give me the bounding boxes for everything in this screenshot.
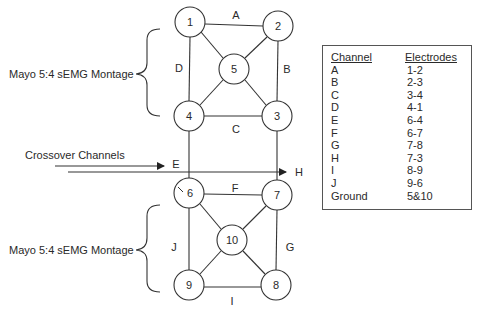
channel-cell: A (331, 64, 405, 77)
channel-label-j: J (171, 241, 177, 253)
node-label-2: 2 (275, 20, 281, 32)
channel-cell: I (331, 164, 405, 177)
table-row: B2-3 (331, 76, 457, 89)
channel-cell: G (331, 139, 405, 152)
electrodes-cell: 6-7 (405, 127, 423, 140)
table-row: G7-8 (331, 139, 457, 152)
ground-link-2-5 (245, 37, 267, 58)
channel-g-line (276, 210, 277, 270)
channel-label-c: C (232, 123, 240, 135)
electrodes-cell: 9-6 (405, 177, 423, 190)
table-row: E6-4 (331, 114, 457, 127)
electrodes-cell: 3-4 (405, 89, 423, 102)
bottom-brace-icon (136, 205, 160, 292)
channel-label-d: D (175, 62, 183, 74)
electrodes-cell: 2-3 (405, 76, 423, 89)
ground-link-4-5 (200, 80, 223, 105)
channel-label-e: E (172, 158, 179, 170)
ground-link-1-5 (201, 32, 223, 58)
table-row: D4-1 (331, 101, 457, 114)
header-channel: Channel (331, 51, 372, 63)
node-label-4: 4 (186, 110, 192, 122)
table-row: J9-6 (331, 177, 457, 190)
montage-label-top: Mayo 5:4 sEMG Montage (9, 68, 134, 80)
table-row: A1-2 (331, 64, 457, 77)
channel-cell: D (331, 101, 405, 114)
electrodes-cell: 7-3 (405, 152, 423, 165)
crossover-channels-label: Crossover Channels (25, 149, 125, 161)
channel-f-line (204, 194, 262, 195)
electrodes-cell: 7-8 (405, 139, 423, 152)
header-electrodes: Electrodes (405, 51, 457, 63)
channel-cell: B (331, 76, 405, 89)
table-row: I8-9 (331, 164, 457, 177)
node-label-8: 8 (273, 279, 279, 291)
channel-cell: H (331, 152, 405, 165)
electrodes-cell: 1-2 (405, 64, 423, 77)
electrodes-cell: 4-1 (405, 101, 423, 114)
channel-cell: C (331, 89, 405, 102)
channel-label-i: I (230, 295, 233, 307)
table-row: H7-3 (331, 152, 457, 165)
node-label-6: 6 (187, 187, 193, 199)
channel-label-f: F (232, 182, 239, 194)
table-row: F6-7 (331, 127, 457, 140)
electrodes-cell: 6-4 (405, 114, 423, 127)
node-label-5: 5 (231, 63, 237, 75)
node-label-7: 7 (274, 189, 280, 201)
table-header-row: Channel Electrodes (331, 51, 457, 64)
top-brace-icon (136, 29, 160, 116)
channel-cell: E (331, 114, 405, 127)
table-row: Ground5&10 (331, 190, 457, 203)
channel-a-line (205, 24, 263, 26)
channel-b-line (277, 41, 278, 101)
channel-cell: Ground (331, 190, 405, 203)
node-label-9: 9 (186, 279, 192, 291)
ground-link-3-5 (245, 80, 266, 105)
ground-link-8-10 (243, 251, 265, 274)
channel-label-h: H (295, 166, 303, 178)
electrodes-cell: 8-9 (405, 164, 423, 177)
node-label-1: 1 (187, 16, 193, 28)
table-row: C3-4 (331, 89, 457, 102)
channel-label-a: A (232, 9, 240, 21)
ground-link-6-10 (200, 204, 221, 229)
ground-link-7-10 (243, 206, 266, 229)
channel-d-line (189, 37, 190, 101)
channel-label-g: G (286, 241, 295, 253)
channel-cell: F (331, 127, 405, 140)
node-label-3: 3 (274, 110, 280, 122)
channel-electrode-table: Channel Electrodes A1-2 B2-3 C3-4 D4-1 E… (322, 45, 472, 210)
channel-cell: J (331, 177, 405, 190)
channel-label-b: B (283, 63, 290, 75)
node-label-10: 10 (226, 234, 238, 246)
ground-link-9-10 (200, 251, 221, 274)
montage-label-bottom: Mayo 5:4 sEMG Montage (9, 244, 134, 256)
electrodes-cell: 5&10 (405, 190, 433, 203)
